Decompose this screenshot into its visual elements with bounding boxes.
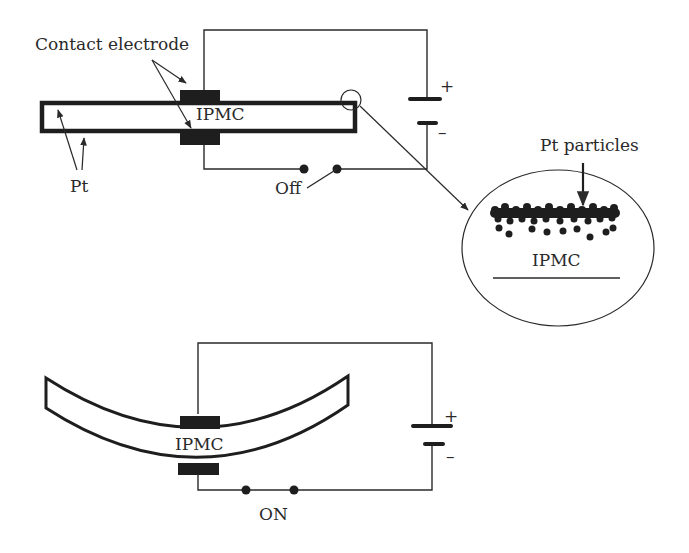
label-contact-electrode: Contact electrode bbox=[35, 36, 189, 53]
top-wire-upper bbox=[204, 30, 427, 99]
label-battery-minus-bottom: – bbox=[446, 448, 455, 465]
bottom-circuit bbox=[46, 343, 451, 495]
inset-ellipse bbox=[462, 170, 654, 326]
switch-contact-right bbox=[290, 486, 299, 495]
arrow-pt-bottom bbox=[82, 138, 84, 170]
label-switch-on: ON bbox=[259, 506, 288, 523]
label-pt: Pt bbox=[70, 178, 88, 195]
label-pt-particles: Pt particles bbox=[540, 137, 639, 154]
top-circuit bbox=[42, 30, 468, 210]
label-ipmc-inset: IPMC bbox=[532, 252, 581, 269]
label-battery-plus-top: + bbox=[440, 78, 454, 95]
top-wire-left-lower bbox=[204, 145, 304, 169]
label-battery-plus-bottom: + bbox=[444, 408, 458, 425]
switch-lever-open bbox=[307, 169, 337, 188]
diagram-graphics bbox=[0, 0, 689, 553]
switch-contact-left bbox=[242, 486, 251, 495]
label-switch-off: Off bbox=[275, 180, 301, 197]
contact-electrode-top bbox=[180, 90, 220, 104]
label-ipmc-top: IPMC bbox=[196, 106, 245, 123]
contact-electrode-bottom bbox=[180, 131, 220, 145]
ipmc-diagram: Contact electrode Pt IPMC Off + – Pt par… bbox=[0, 0, 689, 553]
contact-electrode-top bbox=[180, 416, 220, 429]
contact-electrode-bottom bbox=[178, 463, 219, 475]
magnified-inset bbox=[462, 163, 654, 326]
switch-contact-left bbox=[300, 165, 309, 174]
magnify-arrow bbox=[360, 106, 468, 210]
arrow-contact-top bbox=[152, 60, 186, 83]
label-ipmc-bottom: IPMC bbox=[175, 436, 224, 453]
label-battery-minus-top: – bbox=[438, 124, 447, 141]
